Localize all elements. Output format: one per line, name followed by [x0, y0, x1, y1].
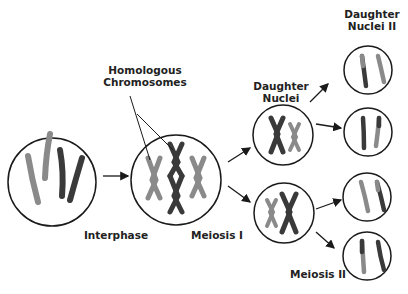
daughter-nucleus-top — [253, 105, 313, 165]
daughter-nuclei-label: Daughter Nuclei — [246, 80, 316, 104]
homologous-label: Homologous Chromosomes — [98, 64, 192, 88]
meiosis-i-cell — [131, 135, 221, 225]
daughter-nucleus-bottom — [254, 183, 314, 243]
daughter-nucleus-ii-2 — [344, 108, 392, 156]
meiosis-ii-label: Meiosis II — [282, 268, 354, 280]
interphase-cell — [8, 134, 96, 226]
interphase-label: Interphase — [76, 229, 156, 241]
daughter-nucleus-ii-1 — [344, 46, 392, 94]
daughter-nucleus-ii-3 — [343, 173, 391, 221]
meiosis-diagram — [0, 0, 408, 294]
meiosis-i-label: Meiosis I — [182, 229, 252, 241]
daughter-nuclei-ii-label: Daughter Nuclei II — [338, 8, 406, 32]
